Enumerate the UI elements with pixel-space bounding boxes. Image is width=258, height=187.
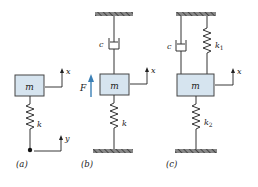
spring-mass-damper-diagram: m x k y (a) c m F: [0, 0, 258, 187]
spring-k2-c: [192, 96, 200, 149]
damper-label-c: c: [167, 42, 172, 51]
coord-x-arrow-a: [45, 71, 62, 87]
ground-bottom-c: [175, 149, 217, 153]
force-label-b: F: [79, 83, 87, 93]
mass-label-c: m: [191, 81, 200, 91]
caption-a: (a): [16, 159, 28, 169]
arrowhead-icon: [145, 67, 149, 72]
spring-label-k1-c: k1: [215, 41, 224, 51]
spring-k-b: [110, 95, 118, 149]
arrowhead-icon: [60, 68, 64, 73]
caption-c: (c): [166, 159, 177, 169]
coord-x-label-a: x: [66, 67, 71, 76]
mass-label-a: m: [25, 82, 34, 92]
spring-k-a: [26, 96, 34, 150]
spring-label-k2-c: k2: [204, 118, 213, 128]
spring-k1-c: [203, 16, 211, 74]
panel-a: m x k y (a): [15, 67, 71, 169]
base-point-a: [28, 148, 32, 152]
ground-top-b: [95, 12, 133, 16]
coord-x-label-c: x: [237, 67, 242, 76]
arrowhead-icon: [231, 68, 235, 73]
spring-label-a: k: [37, 120, 42, 129]
damper-label-b: c: [99, 40, 104, 49]
coord-x-label-b: x: [151, 66, 156, 75]
coord-y-label-a: y: [64, 134, 70, 143]
coord-x-arrow-b: [130, 70, 147, 84]
damper-b: [109, 36, 119, 74]
coord-y-arrow-a: [34, 139, 61, 151]
panel-c: c k1 m x k2 (c): [166, 12, 242, 169]
panel-b: c m F x k (b): [79, 12, 156, 169]
arrowhead-icon: [59, 135, 63, 140]
ground-top-c: [176, 12, 216, 16]
spring-label-b: k: [122, 119, 127, 128]
ground-bottom-b: [93, 149, 133, 153]
coord-x-arrow-c: [215, 71, 233, 85]
damper-c: [176, 38, 186, 74]
force-arrowhead-icon: [88, 74, 94, 82]
mass-label-b: m: [110, 81, 119, 91]
caption-b: (b): [81, 159, 93, 169]
